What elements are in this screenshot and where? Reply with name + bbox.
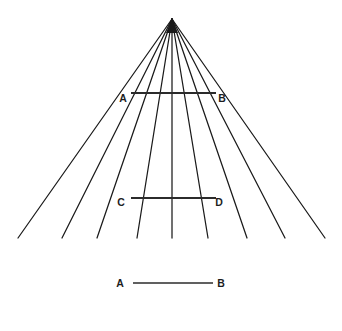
label-b-bottom: B — [217, 277, 225, 289]
figure-canvas: A B C D A B — [0, 0, 342, 331]
label-c-mid: C — [117, 196, 125, 208]
ponzo-illusion-figure: A B C D A B — [0, 0, 342, 331]
label-d-mid: D — [215, 196, 223, 208]
label-a-top: A — [119, 92, 127, 104]
label-a-bottom: A — [116, 277, 124, 289]
figure-background — [0, 0, 342, 331]
label-b-top: B — [218, 92, 226, 104]
